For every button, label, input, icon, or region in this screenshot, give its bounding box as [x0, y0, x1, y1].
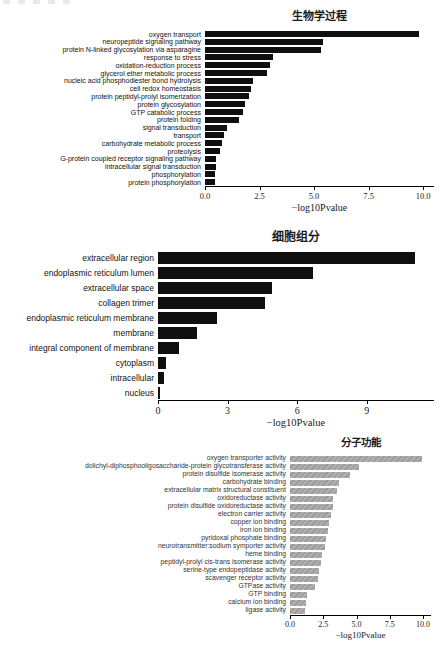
bar: [290, 600, 306, 606]
category-label: ligase activity: [0, 607, 290, 614]
category-label: transport: [0, 132, 205, 139]
category-label: protein peptidyl-prolyl isomerization: [0, 93, 205, 100]
bar-track: [205, 54, 434, 62]
scan-artifact: [3, 0, 73, 4]
bar-row: endoplasmic reticulum membrane: [0, 310, 437, 325]
bar-row: collagen trimer: [0, 295, 437, 310]
bar-track: [290, 519, 431, 527]
category-label: neurotransmitter:sodium symporter activi…: [0, 543, 290, 550]
bar: [290, 608, 305, 614]
bar: [205, 47, 321, 53]
x-axis-label: −log10Pvalue: [205, 202, 434, 214]
bar: [205, 101, 245, 107]
category-label: G-protein coupled receptor signaling pat…: [0, 155, 205, 162]
bar-track: [290, 535, 431, 543]
bar-track: [290, 511, 431, 519]
bar: [205, 78, 253, 84]
x-tick-label: 0: [156, 405, 161, 416]
bar: [290, 528, 328, 534]
bar-track: [290, 527, 431, 535]
category-label: GTPase activity: [0, 583, 290, 590]
category-label: oxygen transport: [0, 31, 205, 38]
category-label: oxidoreductase activity: [0, 495, 290, 502]
bar: [158, 357, 166, 370]
biological-process-chart: 生物学过程 oxygen transportneuropeptide signa…: [0, 6, 437, 213]
bar-row: extracellular region: [0, 250, 437, 265]
x-tick-label: 5.0: [309, 191, 320, 201]
bar-track: [205, 116, 434, 124]
category-label: pyridoxal phosphate binding: [0, 535, 290, 542]
bar: [158, 267, 313, 280]
category-label: collagen trimer: [0, 299, 158, 308]
bar-track: [290, 551, 431, 559]
x-tick-label: 2.5: [318, 620, 328, 629]
category-label: calcium ion binding: [0, 599, 290, 606]
x-tick-label: 0.0: [200, 191, 211, 201]
bar-track: [205, 85, 434, 93]
x-axis-label: −log10Pvalue: [158, 417, 434, 429]
bar-row: calcium ion binding: [0, 599, 437, 607]
bar-rows: oxygen transportneuropeptide signaling p…: [0, 30, 437, 186]
category-label: neuropeptide signaling pathway: [0, 38, 205, 45]
bar: [290, 560, 321, 566]
bar-track: [205, 124, 434, 132]
bar-track: [158, 325, 434, 340]
bar-row: copper ion binding: [0, 519, 437, 527]
bar-row: neurotransmitter:sodium symporter activi…: [0, 543, 437, 551]
bar: [205, 132, 224, 138]
category-label: phosphorylation: [0, 171, 205, 178]
bar-row: electron carrier activity: [0, 511, 437, 519]
x-axis-label: −log10Pvalue: [290, 630, 431, 640]
category-label: oxidation-reduction process: [0, 62, 205, 69]
bar-row: endoplasmic reticulum lumen: [0, 265, 437, 280]
bar-track: [290, 487, 431, 495]
bar: [205, 62, 270, 68]
category-label: protein glycosylation: [0, 101, 205, 108]
bar: [205, 39, 323, 45]
x-ticks: 0.02.55.07.510.0: [290, 619, 431, 630]
category-label: heme binding: [0, 551, 290, 558]
category-label: endoplasmic reticulum membrane: [0, 314, 158, 323]
bar: [290, 576, 318, 582]
bar: [290, 552, 322, 558]
bar-track: [205, 147, 434, 155]
chart-title: 细胞组分: [158, 230, 434, 250]
x-tick-label: 5.0: [352, 620, 362, 629]
bar-track: [290, 559, 431, 567]
bar-rows: extracellular regionendoplasmic reticulu…: [0, 250, 437, 400]
x-tick-label: 7.5: [385, 620, 395, 629]
molecular-function-chart: 分子功能 oxygen transporter activitydolichyl…: [0, 432, 437, 640]
bar-track: [205, 178, 434, 186]
bar-row: protein phosphorylation: [0, 178, 437, 186]
bar-track: [205, 61, 434, 69]
bar-track: [205, 163, 434, 171]
cellular-component-chart: 细胞组分 extracellular regionendoplasmic ret…: [0, 226, 437, 429]
bar-track: [158, 280, 434, 295]
bar-track: [290, 495, 431, 503]
bar: [290, 488, 337, 494]
bar: [158, 372, 164, 385]
bar-track: [290, 455, 431, 463]
bar: [205, 31, 419, 37]
bar: [290, 544, 325, 550]
bar-row: cell redox homeostasis: [0, 85, 437, 93]
bar-row: GTP binding: [0, 591, 437, 599]
bar: [290, 456, 422, 462]
x-tick-label: 7.5: [363, 191, 374, 201]
bar: [158, 327, 197, 340]
category-label: nucleus: [0, 389, 158, 398]
bar: [290, 568, 319, 574]
bar: [158, 312, 217, 325]
bar: [205, 148, 220, 154]
category-label: GTP binding: [0, 591, 290, 598]
bar-track: [158, 355, 434, 370]
x-tick-label: 9: [364, 405, 369, 416]
bar-row: proteolysis: [0, 147, 437, 155]
bar-track: [158, 295, 434, 310]
category-label: intracellular: [0, 374, 158, 383]
x-tick-label: 3: [225, 405, 230, 416]
bar: [205, 54, 273, 60]
bar-row: phosphorylation: [0, 171, 437, 179]
bar-track: [290, 575, 431, 583]
bar-row: protein folding: [0, 116, 437, 124]
